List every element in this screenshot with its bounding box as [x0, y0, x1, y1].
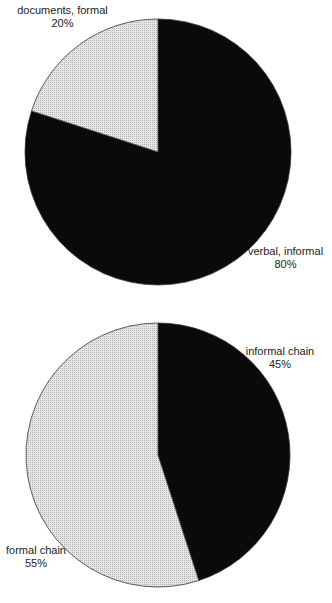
- slice-percent: 20%: [10, 17, 115, 30]
- slice-label-informal-chain: informal chain 45%: [240, 345, 320, 371]
- slice-label-verbal-informal: verbal, informal 80%: [243, 245, 328, 271]
- pie-chart-communication-type: documents, formal 20% verbal, informal 8…: [0, 0, 332, 300]
- pie-chart-chain-type: informal chain 45% formal chain 55%: [0, 300, 332, 603]
- slice-label-documents-formal: documents, formal 20%: [10, 4, 115, 30]
- slice-percent: 80%: [243, 258, 328, 271]
- slice-percent: 45%: [240, 358, 320, 371]
- slice-name: informal chain: [240, 345, 320, 358]
- slice-label-formal-chain: formal chain 55%: [6, 544, 66, 570]
- slice-name: formal chain: [6, 544, 66, 557]
- slice-percent: 55%: [6, 557, 66, 570]
- slice-name: documents, formal: [10, 4, 115, 17]
- slice-name: verbal, informal: [243, 245, 328, 258]
